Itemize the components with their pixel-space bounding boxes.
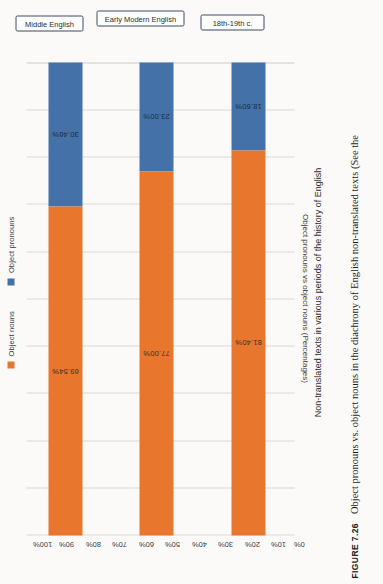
bar-middle-english[interactable]: 30.46% 69.54% <box>48 62 82 535</box>
plot-area: 30.46% 69.54% 23.00% 77.00% 18.60% <box>26 62 294 535</box>
axis-tick: 30% <box>213 544 222 584</box>
chart-legend: Object nouns Object pronouns <box>6 0 15 584</box>
legend-swatch-icon <box>7 361 14 368</box>
legend-swatch-icon <box>7 278 14 285</box>
category-axis-title: Non-translated texts in various periods … <box>312 0 322 584</box>
axis-tick: 10% <box>266 544 275 584</box>
bar-series: 30.46% 69.54% 23.00% 77.00% 18.60% <box>26 62 294 535</box>
legend-label-object-pronouns: Object pronouns <box>6 216 15 273</box>
axis-tick: 90% <box>54 544 63 584</box>
figure-page: Object nouns Object pronouns 100% 90% 80… <box>0 0 383 584</box>
bar-early-modern-english[interactable]: 23.00% 77.00% <box>139 62 173 535</box>
legend-label-object-nouns: Object nouns <box>6 311 15 356</box>
bar-value-label: 30.46% <box>52 130 79 139</box>
axis-tick: 40% <box>187 544 196 584</box>
bar-segment-object-pronouns[interactable]: 18.60% <box>231 62 265 150</box>
bar-segment-object-pronouns[interactable]: 23.00% <box>139 62 173 171</box>
bar-value-label: 77.00% <box>143 348 170 357</box>
axis-tick: 0% <box>289 544 298 584</box>
axis-tick: 50% <box>160 544 169 584</box>
bar-value-label: 23.00% <box>143 112 170 121</box>
bar-18th-19th-c[interactable]: 18.60% 81.40% <box>231 62 265 535</box>
figure-caption-text: Object pronouns vs. object nouns in the … <box>348 134 359 513</box>
bar-segment-object-nouns[interactable]: 81.40% <box>231 150 265 535</box>
axis-tick: 20% <box>240 544 249 584</box>
bar-value-label: 18.60% <box>235 101 262 110</box>
bar-value-label: 69.54% <box>52 366 79 375</box>
bar-segment-object-nouns[interactable]: 69.54% <box>48 206 82 535</box>
legend-item-object-nouns: Object nouns <box>6 311 15 368</box>
legend-item-object-pronouns: Object pronouns <box>6 216 15 285</box>
axis-tick: 70% <box>107 544 116 584</box>
axis-tick: 60% <box>134 544 143 584</box>
value-axis-title: Object pronouns vs object nouns (Percent… <box>300 58 309 538</box>
figure-caption: FIGURE 7.26 Object pronouns vs. object n… <box>348 6 359 578</box>
axis-tick: 80% <box>81 544 90 584</box>
category-label-middle-english: Middle English <box>15 15 83 31</box>
axis-tick: 100% <box>28 544 37 584</box>
bar-segment-object-pronouns[interactable]: 30.46% <box>48 62 82 206</box>
category-label-18th-19th-c: 18th-19th c. <box>200 14 264 30</box>
category-label-early-modern-english: Early Modern English <box>96 10 184 26</box>
bar-value-label: 81.40% <box>235 338 262 347</box>
figure-number: FIGURE 7.26 <box>349 523 359 578</box>
value-axis-ticks: 100% 90% 80% 70% 60% 50% 40% 30% 20% 10%… <box>26 535 294 584</box>
bar-segment-object-nouns[interactable]: 77.00% <box>139 171 173 535</box>
